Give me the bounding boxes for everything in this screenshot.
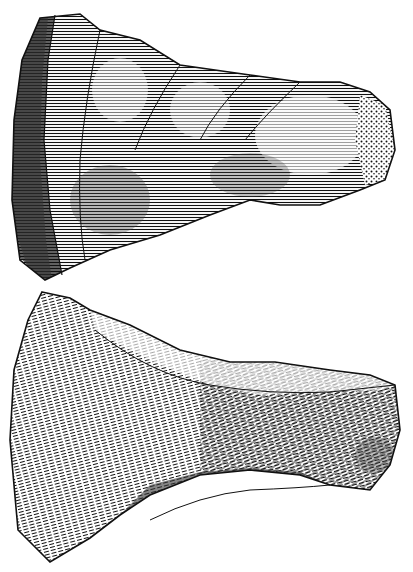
flint-axe-bottom-drawing [0,280,413,572]
flint-axe-top-illustration [0,0,413,290]
flint-axe-bottom-illustration [0,280,413,572]
flint-axe-top-drawing [0,0,413,290]
